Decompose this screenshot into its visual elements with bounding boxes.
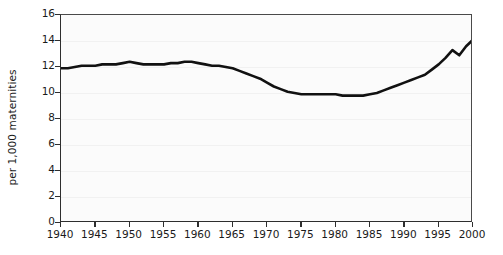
y-tick-10: 10 xyxy=(0,86,55,98)
x-tick-mark-2000 xyxy=(472,222,473,227)
x-tick-mark-1975 xyxy=(300,222,301,227)
y-tick-6: 6 xyxy=(0,138,55,150)
x-tick-mark-1945 xyxy=(94,222,95,227)
y-tick-label-10: 10 xyxy=(33,86,55,97)
x-tick-mark-1960 xyxy=(197,222,198,227)
x-tick-mark-1970 xyxy=(266,222,267,227)
y-tick-14: 14 xyxy=(0,34,55,46)
y-tick-16: 16 xyxy=(0,8,55,20)
x-tick-mark-1950 xyxy=(129,222,130,227)
y-tick-label-2: 2 xyxy=(33,190,55,201)
y-tick-12: 12 xyxy=(0,60,55,72)
y-tick-2: 2 xyxy=(0,190,55,202)
y-tick-4: 4 xyxy=(0,164,55,176)
plot-inner xyxy=(61,15,471,221)
series-layer xyxy=(61,15,471,221)
y-tick-label-6: 6 xyxy=(33,138,55,149)
y-tick-label-14: 14 xyxy=(33,34,55,45)
x-tick-mark-1980 xyxy=(335,222,336,227)
x-tick-mark-1995 xyxy=(438,222,439,227)
plot-area xyxy=(60,14,472,222)
y-tick-label-12: 12 xyxy=(33,60,55,71)
y-tick-label-16: 16 xyxy=(33,8,55,19)
y-tick-0: 0 xyxy=(0,216,55,228)
x-tick-label-2000: 2000 xyxy=(450,229,494,241)
x-tick-mark-1955 xyxy=(163,222,164,227)
chart-container: per 1,000 maternities 0246810121416 1940… xyxy=(0,0,503,255)
series-line-multiple-maternity-rate xyxy=(61,40,471,96)
x-tick-mark-1965 xyxy=(232,222,233,227)
y-tick-label-4: 4 xyxy=(33,164,55,175)
x-tick-mark-1990 xyxy=(403,222,404,227)
y-tick-label-0: 0 xyxy=(33,216,55,227)
x-tick-mark-1985 xyxy=(369,222,370,227)
y-tick-label-8: 8 xyxy=(33,112,55,123)
y-tick-8: 8 xyxy=(0,112,55,124)
x-tick-mark-1940 xyxy=(60,222,61,227)
